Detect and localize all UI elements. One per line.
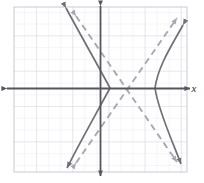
hyperbola-graph-svg: x: [0, 0, 204, 183]
x-axis-label: x: [191, 82, 197, 94]
graph-figure: x: [0, 0, 204, 183]
